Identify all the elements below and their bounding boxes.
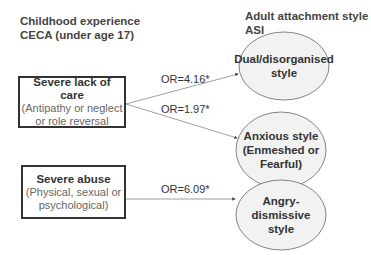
outcome-anxious: Anxious style (Enmeshed or Fearful) <box>236 112 326 188</box>
source-subtitle: (Physical, sexual or <box>23 186 124 199</box>
source-box-lack-of-care: Severe lack of care (Antipathy or neglec… <box>18 76 126 128</box>
outcome-angry: Angry-dismissive style <box>236 180 326 250</box>
attachment-diagram: Childhood experience CECA (under age 17)… <box>0 0 371 255</box>
edge-label-or-1-97: OR=1.97* <box>161 103 210 115</box>
left-header: Childhood experience CECA (under age 17) <box>20 14 140 42</box>
source-title: Severe lack of care <box>20 76 124 102</box>
source-title: Severe abuse <box>23 173 124 186</box>
edge-label-or-4-16: OR=4.16* <box>161 73 210 85</box>
edge-label-or-6-09: OR=6.09* <box>161 183 210 195</box>
source-subtitle: or role reversal <box>20 115 124 128</box>
source-subtitle: psychological) <box>23 199 124 212</box>
left-header-line1: Childhood experience <box>20 14 140 28</box>
left-header-line2: CECA (under age 17) <box>20 28 140 42</box>
source-box-severe-abuse: Severe abuse (Physical, sexual or psycho… <box>21 165 126 219</box>
outcome-dual: Dual/disorganised style <box>239 32 329 100</box>
source-subtitle: (Antipathy or neglect <box>20 102 124 115</box>
right-header-line1: Adult attachment style <box>245 9 368 23</box>
